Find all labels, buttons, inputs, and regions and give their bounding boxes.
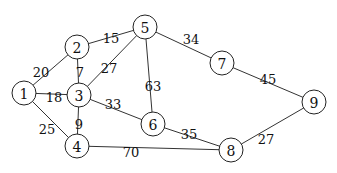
node-label: 2 xyxy=(73,40,82,56)
edge-weight-8-9: 27 xyxy=(258,132,275,147)
node-label: 9 xyxy=(310,95,319,111)
edge-weight-6-8: 35 xyxy=(181,127,198,142)
edge-weight-1-4: 25 xyxy=(39,122,56,137)
graph-svg: 20182515727933633445357027 123456789 xyxy=(0,0,337,173)
node-6: 6 xyxy=(141,112,165,136)
node-label: 8 xyxy=(227,143,236,159)
node-5: 5 xyxy=(133,15,157,39)
node-2: 2 xyxy=(65,35,89,59)
edge-weight-2-3: 7 xyxy=(76,65,84,80)
nodes-layer: 123456789 xyxy=(12,15,326,162)
edge-5-6 xyxy=(145,27,153,124)
edge-weight-5-7: 34 xyxy=(183,32,200,47)
node-label: 1 xyxy=(20,86,29,102)
edge-weight-1-2: 20 xyxy=(33,65,50,80)
node-label: 5 xyxy=(141,20,150,36)
node-1: 1 xyxy=(12,81,36,105)
edge-4-8 xyxy=(77,146,231,150)
edge-weight-3-6: 33 xyxy=(105,97,122,112)
edge-weight-4-8: 70 xyxy=(123,145,140,160)
node-label: 3 xyxy=(75,88,84,104)
edge-weight-5-6: 63 xyxy=(145,79,162,94)
node-7: 7 xyxy=(210,51,234,75)
edge-weight-7-9: 45 xyxy=(260,72,277,87)
edge-weight-3-5: 27 xyxy=(101,61,118,76)
graph-diagram: 20182515727933633445357027 123456789 xyxy=(0,0,337,173)
node-label: 4 xyxy=(73,139,82,155)
edge-weight-3-4: 9 xyxy=(75,117,83,132)
edge-weight-1-3: 18 xyxy=(46,90,63,105)
node-8: 8 xyxy=(219,138,243,162)
node-9: 9 xyxy=(302,90,326,114)
node-label: 7 xyxy=(218,56,227,72)
edge-weight-2-5: 15 xyxy=(103,31,120,46)
node-4: 4 xyxy=(65,134,89,158)
node-3: 3 xyxy=(67,83,91,107)
node-label: 6 xyxy=(149,117,158,133)
